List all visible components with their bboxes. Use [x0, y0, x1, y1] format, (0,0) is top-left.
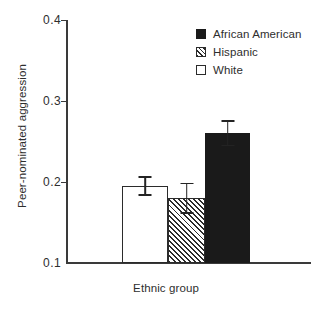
legend-item-hispanic: Hispanic	[196, 44, 302, 59]
legend-label: African American	[213, 28, 302, 40]
y-tick-label: 0.2	[43, 175, 61, 189]
chart-legend: African AmericanHispanicWhite	[196, 26, 302, 77]
legend-swatch-icon	[196, 29, 206, 39]
bar-white	[122, 186, 168, 263]
legend-label: Hispanic	[213, 46, 258, 58]
y-tick-label: 0.4	[43, 13, 61, 27]
y-tick-label: 0.1	[43, 256, 61, 270]
legend-swatch-icon	[196, 47, 206, 57]
bar-hispanic	[168, 198, 205, 263]
x-axis-label: Ethnic group	[66, 282, 266, 294]
bar-chart-figure: Peer-nominated aggression 0.10.20.30.4 E…	[0, 0, 336, 309]
legend-swatch-icon	[196, 65, 206, 75]
y-tick-mark	[61, 182, 66, 183]
legend-label: White	[213, 64, 243, 76]
bar-african-american	[205, 133, 250, 263]
y-tick-mark	[61, 20, 66, 21]
legend-item-white: White	[196, 62, 302, 77]
y-axis-line	[66, 20, 68, 263]
y-tick-mark	[61, 101, 66, 102]
y-axis-label: Peer-nominated aggression	[16, 36, 28, 236]
error-bar-cap-top	[221, 120, 234, 122]
legend-item-african-american: African American	[196, 26, 302, 41]
error-bar-cap-top	[139, 176, 152, 178]
y-tick-label: 0.3	[43, 94, 61, 108]
error-bar-cap-top	[180, 183, 193, 185]
